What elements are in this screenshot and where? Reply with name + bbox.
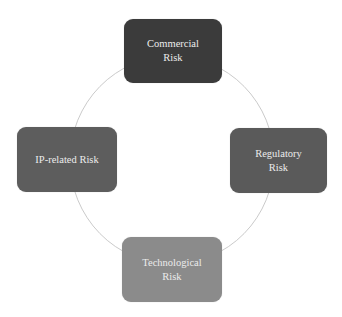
node-label: Regulatory Risk [255,147,302,175]
node-label: Commercial Risk [147,37,199,65]
node-label: Technological Risk [142,256,201,284]
node-commercial-risk: Commercial Risk [124,19,222,83]
node-label: IP-related Risk [35,153,98,167]
node-technological-risk: Technological Risk [122,237,222,302]
risk-cycle-diagram: Commercial Risk Regulatory Risk Technolo… [0,0,342,317]
node-regulatory-risk: Regulatory Risk [230,128,327,193]
node-ip-related-risk: IP-related Risk [17,127,117,192]
